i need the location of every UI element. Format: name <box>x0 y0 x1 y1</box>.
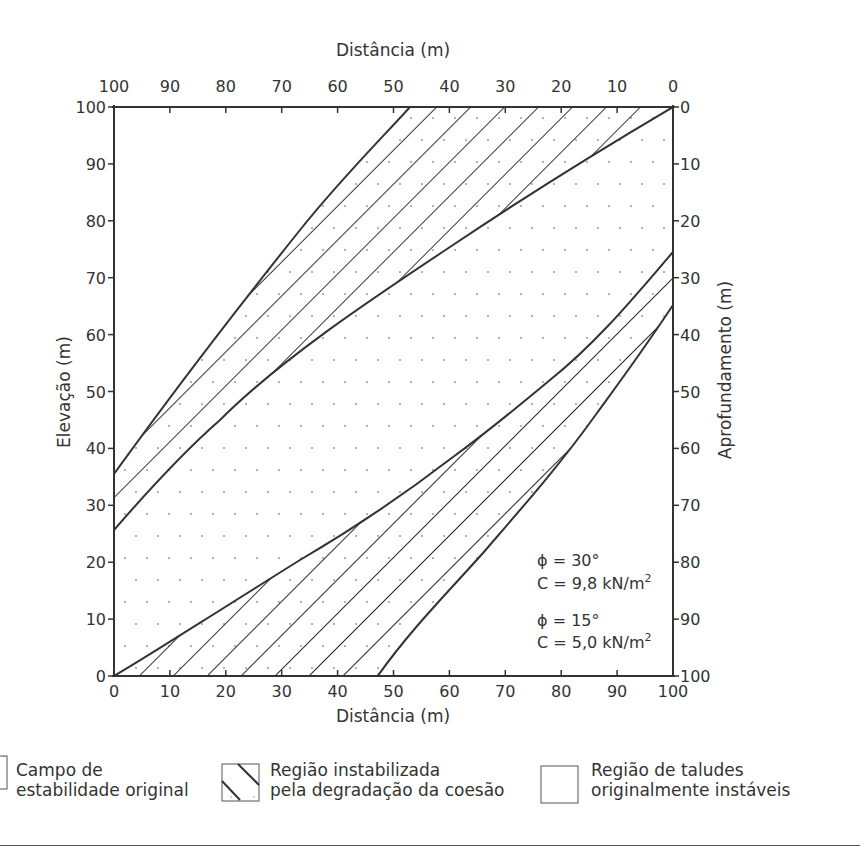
tick-label: 80 <box>216 77 236 96</box>
right-y-axis-label: Aprofundamento (m) <box>715 281 735 459</box>
tick-label: 70 <box>680 496 700 515</box>
tick-label: 100 <box>75 98 106 117</box>
tick-label: 60 <box>439 682 459 701</box>
tick-label: 0 <box>680 98 690 117</box>
tick-label: 10 <box>86 610 106 629</box>
tick-label: 0 <box>96 667 106 686</box>
tick-label: 50 <box>383 682 403 701</box>
tick-label: 0 <box>668 77 678 96</box>
bottom-x-axis-label: Distância (m) <box>336 706 450 726</box>
annotation-c-9-8: C = 9,8 kN/m2 <box>537 572 652 593</box>
tick-label: 20 <box>680 212 700 231</box>
legend-label-line2: estabilidade original <box>16 780 189 800</box>
tick-label: 20 <box>216 682 236 701</box>
legend-swatch-destabilized <box>222 764 259 801</box>
tick-label: 40 <box>327 682 347 701</box>
tick-label: 90 <box>86 155 106 174</box>
tick-label: 20 <box>86 553 106 572</box>
tick-label: 50 <box>680 383 700 402</box>
annotation-phi-15: ϕ = 15° <box>537 611 600 630</box>
tick-label: 10 <box>607 77 627 96</box>
tick-label: 80 <box>680 553 700 572</box>
annotation-c-5-0: C = 5,0 kN/m2 <box>537 631 652 652</box>
legend-item-originally-unstable: Região de taludes originalmente instávei… <box>591 760 790 800</box>
tick-label: 80 <box>86 212 106 231</box>
tick-label: 30 <box>272 682 292 701</box>
tick-label: 0 <box>109 682 119 701</box>
tick-label: 40 <box>680 326 700 345</box>
legend-item-stability-field: Campo de estabilidade original <box>16 760 189 800</box>
tick-label: 70 <box>86 269 106 288</box>
tick-label: 60 <box>327 77 347 96</box>
tick-label: 80 <box>551 682 571 701</box>
tick-label: 50 <box>383 77 403 96</box>
bottom-divider <box>0 845 860 846</box>
tick-label: 60 <box>680 439 700 458</box>
tick-label: 20 <box>551 77 571 96</box>
legend-item-destabilized: Região instabilizada pela degradação da … <box>270 760 505 800</box>
stability-chart: 0102030405060708090100100908070605040302… <box>0 0 865 859</box>
tick-label: 70 <box>272 77 292 96</box>
legend-swatch-originally-unstable <box>541 766 578 803</box>
left-y-axis-label: Elevação (m) <box>54 336 74 448</box>
tick-label: 90 <box>680 610 700 629</box>
tick-label: 10 <box>160 682 180 701</box>
tick-label: 30 <box>495 77 515 96</box>
legend-label-line1: Campo de <box>16 760 189 780</box>
tick-label: 30 <box>680 269 700 288</box>
tick-label: 60 <box>86 326 106 345</box>
tick-label: 100 <box>680 667 711 686</box>
tick-label: 40 <box>86 439 106 458</box>
tick-label: 90 <box>607 682 627 701</box>
tick-label: 100 <box>99 77 130 96</box>
tick-label: 10 <box>680 155 700 174</box>
tick-label: 40 <box>439 77 459 96</box>
legend-swatch-stability-field <box>0 756 7 789</box>
top-x-axis-label: Distância (m) <box>336 40 450 60</box>
legend-label-line2: pela degradação da coesão <box>270 780 505 800</box>
tick-label: 30 <box>86 496 106 515</box>
tick-label: 50 <box>86 383 106 402</box>
legend-label-line1: Região instabilizada <box>270 760 505 780</box>
tick-label: 70 <box>495 682 515 701</box>
legend-label-line1: Região de taludes <box>591 760 790 780</box>
legend-label-line2: originalmente instáveis <box>591 780 790 800</box>
tick-label: 90 <box>160 77 180 96</box>
annotation-phi-30: ϕ = 30° <box>537 551 600 570</box>
